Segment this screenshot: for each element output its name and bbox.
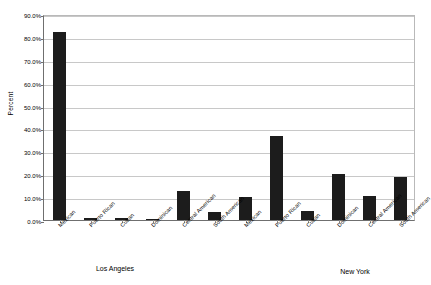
plot-area: 0.0%10.0%20.0%30.0%40.0%50.0%60.0%70.0%8… [43,15,415,221]
category-labels: MexicanPuerto RicanCubanDominicanCentral… [43,221,415,266]
y-axis-tick-label: 10.0% [1,196,41,202]
y-axis-tick-label: 20.0% [1,173,41,179]
y-axis-tick-label: 60.0% [1,82,41,88]
bar [332,174,345,220]
y-axis-tick-label: 90.0% [1,13,41,19]
y-axis-tick-label: 50.0% [1,105,41,111]
bars-layer [44,16,414,220]
y-axis-tick-label: 30.0% [1,150,41,156]
y-axis-tick-label: 70.0% [1,59,41,65]
group-label-los-angeles: Los Angeles [55,265,175,272]
bar [270,136,283,220]
y-axis-tick-label: 40.0% [1,127,41,133]
bar [53,32,66,220]
group-label-new-york: New York [300,268,410,275]
y-axis-tick-label: 0.0% [1,219,41,225]
y-axis-tick-label: 80.0% [1,36,41,42]
